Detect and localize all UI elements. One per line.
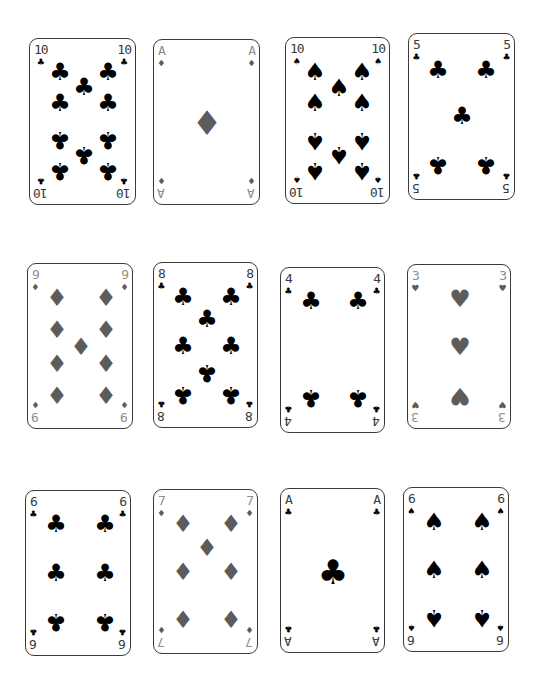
diamond-icon: ♦ bbox=[94, 384, 118, 408]
card-8-clubs[interactable]: 8♣ 8♣ 8♣ 8♣ ♣ ♣ ♣ ♣ ♣ ♣ ♣ ♣ bbox=[153, 262, 258, 428]
heart-icon: ♥ bbox=[448, 287, 472, 311]
rank-label: 7 bbox=[246, 494, 253, 507]
rank-label: A bbox=[373, 635, 380, 648]
diamond-icon: ♦ bbox=[32, 282, 39, 293]
corner-index: 5♣ bbox=[503, 38, 510, 63]
diamond-icon: ♦ bbox=[94, 318, 118, 342]
rank-label: 10 bbox=[290, 186, 304, 199]
spade-icon: ♠ bbox=[303, 60, 327, 84]
corner-index: 9♦ bbox=[32, 399, 39, 424]
club-icon: ♣ bbox=[373, 403, 380, 414]
spade-icon: ♠ bbox=[375, 56, 382, 67]
club-icon: ♣ bbox=[246, 281, 253, 292]
club-icon: ♣ bbox=[285, 623, 292, 634]
rank-label: 3 bbox=[412, 269, 419, 282]
rank-label: A bbox=[248, 44, 255, 57]
corner-index: 9♦ bbox=[32, 268, 39, 293]
corner-index: 6♣ bbox=[30, 495, 37, 520]
corner-index: 6♠ bbox=[408, 492, 415, 517]
card-6-spades[interactable]: 6♠ 6♠ 6♠ 6♠ ♠ ♠ ♠ ♠ ♠ ♠ bbox=[403, 487, 509, 652]
corner-index: 10♠ bbox=[290, 174, 304, 199]
heart-icon: ♥ bbox=[412, 283, 419, 294]
rank-label: 5 bbox=[413, 182, 420, 195]
rank-label: A bbox=[285, 493, 292, 506]
diamond-icon: ♦ bbox=[45, 286, 69, 310]
card-7-diamonds[interactable]: 7♦ 7♦ 7♦ 7♦ ♦ ♦ ♦ ♦ ♦ ♦ ♦ bbox=[153, 489, 258, 654]
club-icon: ♣ bbox=[503, 170, 510, 181]
club-icon: ♣ bbox=[30, 626, 37, 637]
corner-index: 6♠ bbox=[497, 492, 504, 517]
corner-index: A♦ bbox=[158, 175, 165, 200]
card-5-clubs[interactable]: 5♣ 5♣ 5♣ 5♣ ♣ ♣ ♣ ♣ ♣ bbox=[408, 33, 515, 200]
corner-index: 7♦ bbox=[246, 494, 253, 519]
corner-index: 7♦ bbox=[246, 624, 253, 649]
heart-icon: ♥ bbox=[499, 399, 506, 410]
card-ace-diamonds[interactable]: A♦ A♦ A♦ A♦ ♦ bbox=[153, 39, 260, 205]
club-icon: ♣ bbox=[219, 334, 243, 358]
rank-label: 6 bbox=[119, 495, 126, 508]
spade-icon: ♠ bbox=[350, 129, 374, 153]
rank-label: 7 bbox=[158, 636, 165, 649]
club-icon: ♣ bbox=[171, 285, 195, 309]
card-10-spades[interactable]: 10♠ 10♠ 10♠ 10♠ ♠ ♠ ♠ ♠ ♠ ♠ ♠ ♠ ♠ ♠ bbox=[285, 37, 390, 204]
club-icon: ♣ bbox=[48, 159, 72, 183]
club-icon: ♣ bbox=[413, 52, 420, 63]
rank-label: 9 bbox=[32, 411, 39, 424]
club-icon: ♣ bbox=[346, 386, 370, 410]
diamond-icon: ♦ bbox=[171, 608, 195, 632]
spade-icon: ♠ bbox=[294, 174, 301, 185]
club-icon: ♣ bbox=[285, 403, 292, 414]
card-10-clubs[interactable]: 10♣ 10♣ 10♣ 10♣ ♣ ♣ ♣ ♣ ♣ ♣ ♣ ♣ ♣ ♣ bbox=[29, 38, 136, 205]
club-icon: ♣ bbox=[119, 509, 126, 520]
rank-label: 9 bbox=[121, 268, 128, 281]
rank-label: 10 bbox=[117, 43, 131, 56]
rank-label: 3 bbox=[499, 411, 506, 424]
corner-index: 3♥ bbox=[499, 269, 506, 294]
club-icon: ♣ bbox=[285, 507, 292, 518]
spade-icon: ♠ bbox=[422, 606, 446, 630]
card-ace-clubs[interactable]: A♣ A♣ A♣ A♣ ♣ bbox=[280, 488, 385, 653]
rank-label: 8 bbox=[158, 410, 165, 423]
rank-label: 8 bbox=[158, 267, 165, 280]
club-icon: ♣ bbox=[474, 58, 498, 82]
spade-icon: ♠ bbox=[303, 91, 327, 115]
club-icon: ♣ bbox=[219, 383, 243, 407]
rank-label: 4 bbox=[373, 415, 380, 428]
card-9-diamonds[interactable]: 9♦ 9♦ 9♦ 9♦ ♦ ♦ ♦ ♦ ♦ ♦ ♦ ♦ ♦ bbox=[27, 263, 133, 429]
club-icon: ♣ bbox=[316, 555, 350, 589]
club-icon: ♣ bbox=[426, 58, 450, 82]
card-3-hearts[interactable]: 3♥ 3♥ 3♥ 3♥ ♥ ♥ ♥ bbox=[407, 264, 511, 429]
corner-index: 4♣ bbox=[373, 403, 380, 428]
corner-index: 7♦ bbox=[158, 494, 165, 519]
card-6-clubs[interactable]: 6♣ 6♣ 6♣ 6♣ ♣ ♣ ♣ ♣ ♣ ♣ bbox=[25, 490, 131, 656]
club-icon: ♣ bbox=[346, 289, 370, 313]
corner-index: A♣ bbox=[373, 493, 380, 518]
diamond-icon: ♦ bbox=[219, 560, 243, 584]
diamond-icon: ♦ bbox=[69, 335, 93, 359]
corner-index: 3♥ bbox=[412, 269, 419, 294]
corner-index: A♦ bbox=[248, 175, 255, 200]
club-icon: ♣ bbox=[48, 60, 72, 84]
rank-label: 6 bbox=[30, 495, 37, 508]
spade-icon: ♠ bbox=[497, 506, 504, 517]
corner-index: 6♣ bbox=[30, 626, 37, 651]
card-4-clubs[interactable]: 4♣ 4♣ 4♣ 4♣ ♣ ♣ ♣ ♣ bbox=[280, 267, 385, 433]
spade-icon: ♠ bbox=[303, 129, 327, 153]
spade-icon: ♠ bbox=[327, 143, 351, 167]
rank-label: 5 bbox=[503, 38, 510, 51]
corner-index: 3♥ bbox=[412, 399, 419, 424]
club-icon: ♣ bbox=[44, 561, 68, 585]
club-icon: ♣ bbox=[96, 91, 120, 115]
diamond-icon: ♦ bbox=[171, 512, 195, 536]
rank-label: 10 bbox=[290, 42, 304, 55]
rank-label: 10 bbox=[34, 187, 48, 200]
rank-label: A bbox=[158, 187, 165, 200]
spade-icon: ♠ bbox=[303, 159, 327, 183]
diamond-icon: ♦ bbox=[190, 106, 224, 140]
club-icon: ♣ bbox=[171, 383, 195, 407]
spade-icon: ♠ bbox=[327, 76, 351, 100]
rank-label: 10 bbox=[34, 43, 48, 56]
diamond-icon: ♦ bbox=[121, 399, 128, 410]
heart-icon: ♥ bbox=[499, 283, 506, 294]
spade-icon: ♠ bbox=[350, 159, 374, 183]
